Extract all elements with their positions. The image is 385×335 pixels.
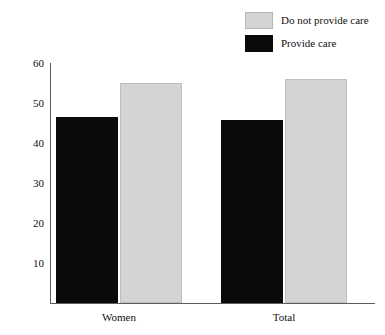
bar-chart: Do not provide care Provide care 1020304… <box>0 0 385 335</box>
chart-legend: Do not provide care Provide care <box>245 12 369 52</box>
bar <box>285 79 347 303</box>
y-axis-line <box>50 63 51 303</box>
y-tick-label: 50 <box>33 97 44 109</box>
plot-area: 102030405060 WomenTotal <box>50 63 375 303</box>
y-tick-label: 40 <box>33 137 44 149</box>
legend-label-provide-care: Provide care <box>281 38 336 49</box>
x-tick-label: Women <box>102 311 136 323</box>
x-tick-label: Total <box>273 311 295 323</box>
x-axis-line <box>50 303 375 304</box>
bar <box>221 120 283 303</box>
y-tick-label: 60 <box>33 57 44 69</box>
bar <box>56 117 118 303</box>
y-tick-label: 30 <box>33 177 44 189</box>
y-tick-label: 10 <box>33 257 44 269</box>
bar <box>120 83 182 303</box>
legend-item-do-not-provide-care: Do not provide care <box>245 12 369 29</box>
legend-swatch-provide-care <box>245 35 273 52</box>
legend-item-provide-care: Provide care <box>245 35 369 52</box>
legend-label-do-not-provide-care: Do not provide care <box>281 15 369 26</box>
y-tick-label: 20 <box>33 217 44 229</box>
legend-swatch-do-not-provide-care <box>245 12 273 29</box>
